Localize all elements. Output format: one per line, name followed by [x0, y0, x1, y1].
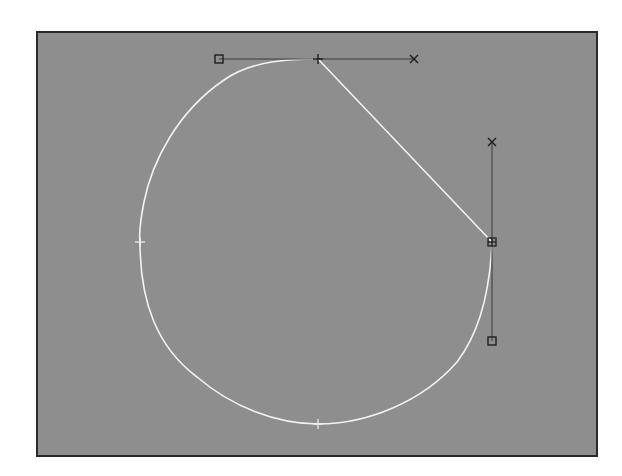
- left-vertex-plus-icon[interactable]: [135, 237, 145, 247]
- spline-edit-viewport[interactable]: spline-edit-viewport: [36, 31, 598, 457]
- bottom-vertex-plus-icon[interactable]: [313, 419, 323, 429]
- spline-curve[interactable]: [140, 59, 492, 424]
